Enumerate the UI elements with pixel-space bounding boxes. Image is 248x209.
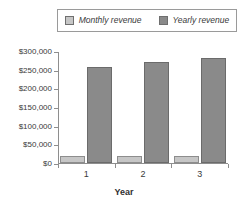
y-axis-tick-label: $150,000: [19, 104, 52, 112]
y-axis-tick-label: $100,000: [19, 123, 52, 131]
x-axis-tick: [228, 164, 229, 168]
y-axis-tick: [54, 89, 59, 90]
y-axis-tick-label: $0: [43, 160, 52, 168]
chart-legend: Monthly revenue Yearly revenue: [57, 9, 237, 32]
legend-entries: Monthly revenue Yearly revenue: [58, 10, 236, 31]
legend-item-yearly-revenue: Yearly revenue: [159, 16, 230, 25]
legend-swatch-monthly-icon: [65, 16, 74, 25]
bar-monthly-year-3: [174, 156, 199, 163]
x-axis-title: Year: [0, 188, 248, 197]
y-axis-tick: [54, 108, 59, 109]
bar-monthly-year-2: [117, 156, 142, 163]
bar-monthly-year-1: [60, 156, 85, 163]
y-axis-tick-label: $200,000: [19, 85, 52, 93]
y-axis-tick-label: $50,000: [23, 141, 52, 149]
legend-swatch-yearly-icon: [159, 16, 168, 25]
x-axis-line: [58, 163, 228, 164]
bar-yearly-year-1: [87, 67, 112, 163]
x-axis-tick: [171, 164, 172, 168]
legend-item-monthly-revenue: Monthly revenue: [65, 16, 142, 25]
x-axis-tick: [58, 164, 59, 168]
bar-yearly-year-2: [144, 62, 169, 163]
x-axis-tick-label: 2: [140, 170, 145, 179]
legend-label-yearly: Yearly revenue: [173, 16, 230, 25]
y-axis-tick-label: $250,000: [19, 67, 52, 75]
bar-yearly-year-3: [201, 58, 226, 163]
y-axis-tick: [54, 127, 59, 128]
y-axis-tick: [54, 71, 59, 72]
y-axis-tick: [54, 52, 59, 53]
y-axis-tick-label: $300,000: [19, 48, 52, 56]
x-axis-tick: [115, 164, 116, 168]
y-axis-tick: [54, 145, 59, 146]
plot-area: $0$50,000$100,000$150,000$200,000$250,00…: [58, 52, 228, 164]
x-axis-tick-label: 3: [197, 170, 202, 179]
bar-chart: Monthly revenue Yearly revenue $0$50,000…: [0, 0, 248, 209]
legend-label-monthly: Monthly revenue: [79, 16, 142, 25]
x-axis-tick-label: 1: [84, 170, 89, 179]
